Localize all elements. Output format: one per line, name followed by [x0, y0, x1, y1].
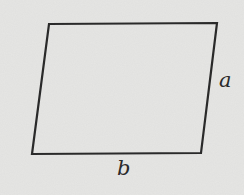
side-label-b: b [117, 158, 130, 179]
side-label-a: a [219, 70, 232, 91]
parallelogram-diagram: a b [0, 0, 244, 195]
